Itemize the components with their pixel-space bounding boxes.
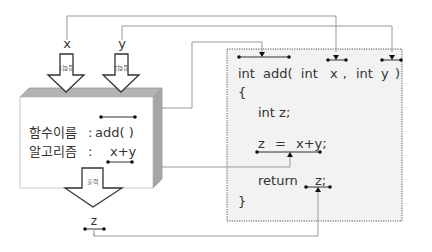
input-arrow-2-label: 입력2 xyxy=(113,64,129,72)
input-arrow-2: 입력2 xyxy=(103,54,139,92)
separator-2: : xyxy=(88,144,92,159)
input-arrow-1-label: 입력1 xyxy=(58,64,74,72)
svg-text:return: return xyxy=(258,173,298,188)
code-close-brace: } xyxy=(238,194,246,209)
output-z-label: z xyxy=(91,214,97,228)
function-mapping-diagram: 입력1 입력2 x y 함수이름 : add( ) 알고리즘 : x+y 출력 … xyxy=(0,0,432,252)
svg-text:int add( int: int add( int x , int y ) xyxy=(238,66,400,81)
code-open-brace: { xyxy=(238,85,246,100)
code-return-value: z; xyxy=(315,173,326,188)
algorithm-value: x+y xyxy=(110,144,137,159)
wire-y-to-param-y xyxy=(122,26,392,52)
output-arrow-label: 출력 xyxy=(87,178,99,186)
input-x-label: x xyxy=(63,36,71,51)
function-name-label: 함수이름 xyxy=(29,125,77,140)
input-arrow-1: 입력1 xyxy=(48,54,84,92)
box-top-face xyxy=(20,88,162,97)
wire-x-to-param-x xyxy=(67,16,336,52)
box-side-face xyxy=(153,88,162,188)
function-name-value: add( ) xyxy=(95,125,134,140)
algorithm-label: 알고리즘 xyxy=(29,144,77,159)
input-y-label: y xyxy=(118,36,126,51)
separator-1: : xyxy=(88,125,92,140)
code-declare-z: int z; xyxy=(258,105,290,120)
